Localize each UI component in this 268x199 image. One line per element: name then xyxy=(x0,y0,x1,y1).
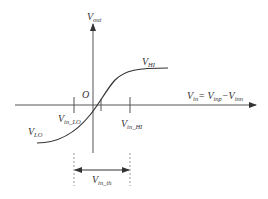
transfer-characteristic-diagram: Vout Vin= Vinp−Vinn O VHI VLO Vin_LO Vin… xyxy=(0,0,268,199)
v-hi-label: VHI xyxy=(142,56,156,68)
v-lo-label: VLO xyxy=(28,126,43,138)
y-axis-label: Vout xyxy=(87,11,102,23)
v-in-hi-label: Vin_HI xyxy=(121,118,143,130)
origin-label: O xyxy=(82,89,89,100)
x-axis-label: Vin= Vinp−Vinn xyxy=(187,90,243,102)
v-in-th-label: Vin_th xyxy=(92,174,111,186)
v-in-lo-label: Vin_LO xyxy=(58,113,81,125)
